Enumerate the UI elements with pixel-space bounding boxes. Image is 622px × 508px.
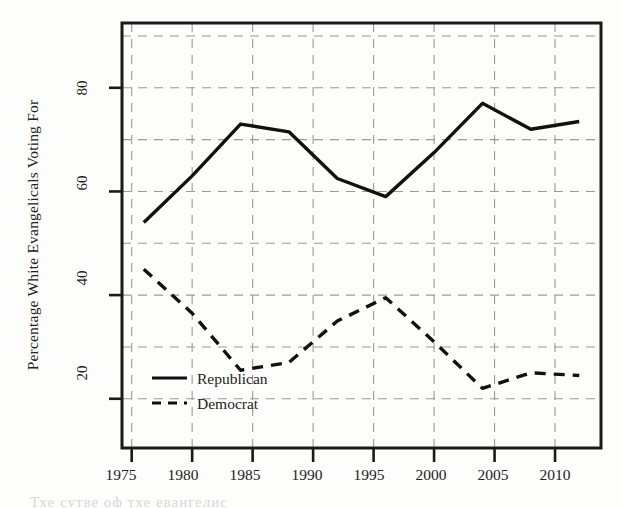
- legend-label-democrat: Democrat: [197, 395, 259, 412]
- page-scan-artifact: Тхе сутве оф тхе евангелис: [30, 494, 590, 507]
- chart-legend: RepublicanDemocrat: [152, 370, 268, 412]
- chart-figure: Percentage White Evangelicals Voting For…: [0, 0, 622, 508]
- series-line-republican: [144, 103, 579, 222]
- data-series: [144, 103, 579, 388]
- legend-label-republican: Republican: [197, 370, 268, 387]
- grid-lines: [122, 23, 601, 448]
- axis-ticks: [109, 88, 555, 462]
- plot-area: RepublicanDemocrat: [0, 0, 622, 508]
- plot-frame: [122, 23, 601, 448]
